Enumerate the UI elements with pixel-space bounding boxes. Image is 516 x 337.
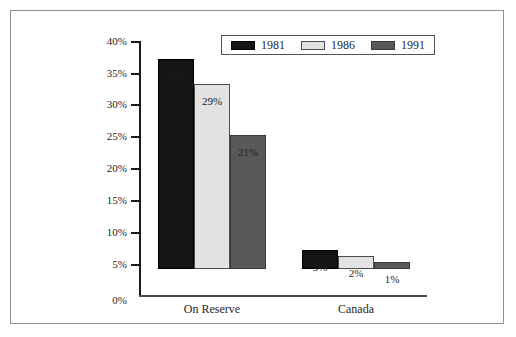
legend-item-1986[interactable]: 1986	[301, 39, 355, 51]
bar-value-canada-1991: 1%	[370, 274, 414, 285]
bar-rect	[194, 84, 230, 269]
bar-value-on-reserve-1986: 29%	[190, 96, 234, 107]
legend-label-1991: 1991	[401, 39, 425, 51]
bar-value-on-reserve-1991: 21%	[226, 147, 270, 158]
chart-legend: 1981 1986 1991	[221, 35, 435, 55]
legend-swatch-icon-1986	[301, 41, 325, 50]
bar-on-reserve-1981[interactable]	[158, 59, 194, 269]
bar-value-on-reserve-1981: 33%	[154, 71, 198, 82]
figure-frame: 40% 35% 30% 25% 20% 15% 10% 5% 0%	[10, 10, 504, 324]
x-category-label-on-reserve: On Reserve	[152, 302, 272, 316]
figure-root: 40% 35% 30% 25% 20% 15% 10% 5% 0%	[0, 0, 516, 337]
plot-area: 40% 35% 30% 25% 20% 15% 10% 5% 0%	[11, 11, 505, 325]
bar-rect	[374, 262, 410, 269]
bar-on-reserve-1986[interactable]	[194, 84, 230, 269]
legend-label-1981: 1981	[261, 39, 285, 51]
legend-swatch-icon-1991	[371, 41, 395, 50]
legend-item-1981[interactable]: 1981	[231, 39, 285, 51]
bar-rect	[158, 59, 194, 269]
legend-swatch-icon-1981	[231, 41, 255, 50]
x-category-label-canada: Canada	[296, 302, 416, 316]
legend-label-1986: 1986	[331, 39, 355, 51]
legend-item-1991[interactable]: 1991	[371, 39, 425, 51]
bar-canada-1991[interactable]	[374, 262, 410, 269]
